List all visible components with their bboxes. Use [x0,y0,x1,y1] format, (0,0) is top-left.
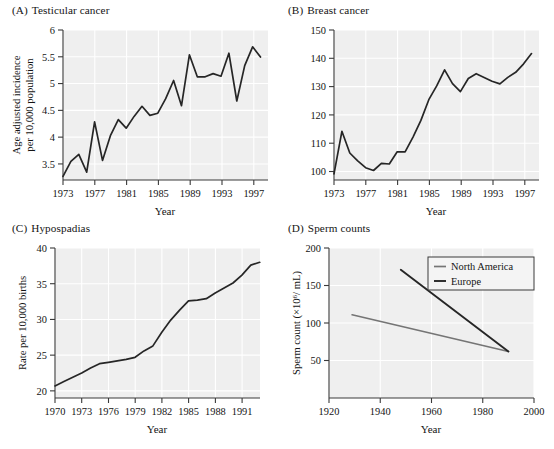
panel-b-label: (B) [288,4,303,16]
panel-c-x-ticks [55,398,242,403]
panel-b-xtick-5: 1989 [451,188,472,199]
panel-b-y-ticks [329,30,334,172]
panel-a-ytick-1: 3.5 [42,159,55,170]
panel-d-y-tick-labels: 200 150 100 50 [305,243,321,366]
panel-b-svg: 150 140 130 120 110 100 1973 1977 1981 1… [276,20,554,225]
panel-d-title-text: Sperm counts [308,222,370,234]
panel-b-xtick-1: 1973 [324,188,345,199]
panel-b-plot: 150 140 130 120 110 100 1973 1977 1981 1… [276,20,554,225]
panel-b-ytick-2: 110 [311,138,326,149]
panel-a-y-ticks [58,30,63,164]
panel-c-x-tick-labels: 1970 1973 1976 1979 1982 1985 1988 1991 [45,406,253,417]
panel-b-ytick-4: 130 [310,81,326,92]
panel-a-y-tick-labels: 6 5.5 5 4.5 4 3.5 [42,25,56,170]
panel-a-x-ticks [63,180,254,185]
panel-d-ylabel-tail: / mL) [291,271,303,295]
panel-c-xtick-6: 1985 [178,406,199,417]
panel-d-xtick-5: 2000 [524,406,545,417]
panel-a-y-axis-title-line1: Age adjusted incidence [11,55,22,154]
panel-c-plot: 40 35 30 25 20 1970 1973 1976 1979 1982 … [0,238,278,443]
panel-d-x-tick-labels: 1920 1940 1960 1980 2000 [319,406,545,417]
panel-b-ytick-5: 140 [310,53,326,64]
panel-a-title-text: Testicular cancer [32,4,110,16]
panel-c-xtick-4: 1979 [125,406,146,417]
panel-b-title-text: Breast cancer [307,4,369,16]
panel-d-xtick-1: 1920 [319,406,340,417]
panel-c-xtick-2: 1973 [71,406,92,417]
panel-a-ytick-5: 5.5 [42,52,55,63]
panel-d-xtick-3: 1960 [421,406,442,417]
panel-a-plot: 6 5.5 5 4.5 4 3.5 1973 1977 1981 1985 19… [0,20,278,225]
panel-a-xtick-3: 1981 [116,188,137,199]
panel-d-title: (D)Sperm counts [288,222,370,234]
panel-a: (A)Testicular cancer [12,4,109,16]
panel-b-xtick-6: 1993 [483,188,504,199]
panel-c-svg: 40 35 30 25 20 1970 1973 1976 1979 1982 … [0,238,278,443]
panel-c-ytick-1: 20 [37,386,47,397]
panel-a-xtick-5: 1989 [180,188,201,199]
panel-a-x-axis-title: Year [155,205,176,217]
panel-a-ytick-2: 4 [50,132,56,143]
panel-d-x-axis-title: Year [421,423,442,435]
panel-c-ytick-5: 40 [37,243,47,254]
panel-d-ytick-3: 150 [305,280,321,291]
panel-c-x-axis-title: Year [147,423,168,435]
panel-b-ytick-6: 150 [310,25,326,36]
panel-c: (C)Hypospadias [12,222,90,234]
panel-a-ytick-4: 5 [50,78,55,89]
panel-b-plot-background [334,30,539,180]
panel-c-y-ticks [50,248,55,391]
panel-a-ytick-6: 6 [50,25,55,36]
panel-b-xtick-4: 1985 [419,188,440,199]
panel-d-y-ticks [324,248,329,361]
panel-c-title-text: Hypospadias [31,222,90,234]
panel-c-y-tick-labels: 40 35 30 25 20 [37,243,47,397]
panel-c-xtick-3: 1976 [98,406,119,417]
panel-b-ytick-1: 100 [310,166,326,177]
panel-a-title: (A)Testicular cancer [12,4,109,16]
panel-d-ylabel-main: Sperm count (×10 [291,298,303,375]
panel-d-plot: 200 150 100 50 1920 1940 1960 1980 2000 … [276,238,554,443]
panel-d-xtick-4: 1980 [472,406,493,417]
panel-c-ytick-4: 35 [37,279,47,290]
panel-c-ytick-3: 30 [37,314,47,325]
panel-c-plot-background [55,248,260,398]
panel-a-label: (A) [12,4,28,16]
panel-b-xtick-7: 1997 [514,188,535,199]
panel-b-ytick-3: 120 [310,110,326,121]
panel-a-xtick-7: 1997 [243,188,264,199]
panel-b-x-axis-title: Year [426,205,447,217]
panel-c-ytick-2: 25 [37,350,47,361]
panel-c-label: (C) [12,222,27,234]
panel-b-xtick-2: 1977 [355,188,376,199]
panel-c-y-axis-title: Rate per 10,000 births [17,276,28,370]
panel-d-x-ticks [329,398,534,403]
panel-d-y-axis-title: Sperm count (×106/ mL) [291,271,304,375]
panel-b-x-ticks [334,180,525,185]
panel-d-ytick-1: 50 [311,355,321,366]
panel-a-ytick-3: 4.5 [42,105,55,116]
legend-label-europe: Europe [451,276,481,287]
panel-d-legend: North America Europe [428,257,534,290]
panel-c-title: (C)Hypospadias [12,222,90,234]
panel-d-svg: 200 150 100 50 1920 1940 1960 1980 2000 … [276,238,554,443]
panel-d-ytick-4: 200 [305,243,321,254]
panel-b-title: (B)Breast cancer [288,4,369,16]
panel-d-label: (D) [288,222,304,234]
panel-b-xtick-3: 1981 [387,188,408,199]
panel-b-y-tick-labels: 150 140 130 120 110 100 [310,25,326,178]
panel-b: (B)Breast cancer [288,4,369,16]
panel-a-x-tick-labels: 1973 1977 1981 1985 1989 1993 1997 [53,188,265,199]
panel-b-x-tick-labels: 1973 1977 1981 1985 1989 1993 1997 [324,188,536,199]
panel-d-ytick-2: 100 [305,318,321,329]
figure-root: (A)Testicular cancer [0,0,554,449]
panel-a-y-axis-title-line2: per 10,000 population [24,58,35,152]
panel-a-xtick-1: 1973 [53,188,74,199]
panel-a-xtick-2: 1977 [84,188,105,199]
panel-a-svg: 6 5.5 5 4.5 4 3.5 1973 1977 1981 1985 19… [0,20,278,225]
panel-d: (D)Sperm counts [288,222,370,234]
panel-a-xtick-6: 1993 [212,188,233,199]
panel-c-xtick-5: 1982 [152,406,173,417]
legend-label-north-america: North America [451,261,513,272]
panel-a-xtick-4: 1985 [148,188,169,199]
